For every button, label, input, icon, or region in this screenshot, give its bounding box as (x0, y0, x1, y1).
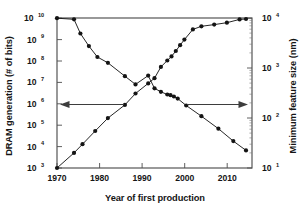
x-tick-label-0: 1970 (47, 173, 66, 183)
x-tick-label-1: 1980 (90, 173, 109, 183)
y2-tick-mantissa-2: 10 (262, 63, 272, 73)
y-tick-exponent-0: 3 (41, 162, 44, 168)
y-tick-exponent-4: 7 (41, 76, 44, 82)
x-tick-label-4: 2010 (218, 173, 237, 183)
y-tick-mantissa-5: 10 (27, 56, 37, 66)
y-tick-mantissa-2: 10 (27, 120, 37, 130)
y-tick-mantissa-7: 10 (24, 13, 34, 23)
y2-tick-mantissa-1: 10 (262, 113, 272, 123)
y-tick-exponent-3: 6 (41, 97, 44, 103)
x-tick-label-3: 2000 (175, 173, 194, 183)
y2-tick-exponent-1: 2 (276, 112, 279, 118)
y-tick-exponent-5: 8 (41, 55, 44, 61)
y-tick-mantissa-0: 10 (27, 163, 37, 173)
x-axis-title: Year of first production (105, 193, 205, 203)
y-tick-exponent-7: 10 (38, 12, 44, 18)
y-tick-mantissa-1: 10 (27, 142, 37, 152)
x-tick-label-2: 1990 (133, 173, 152, 183)
dram-scaling-chart: DRAM generation (# of bits) Minimum feat… (0, 0, 307, 211)
y2-tick-exponent-0: 1 (276, 162, 279, 168)
y-tick-mantissa-4: 10 (27, 77, 37, 87)
y2-axis-title-group: Minimum feature size (nm) (288, 39, 298, 154)
y-axis-title: DRAM generation (# of bits) (4, 36, 14, 156)
chart-svg: DRAM generation (# of bits) Minimum feat… (0, 0, 307, 211)
y2-axis-title: Minimum feature size (nm) (288, 39, 298, 154)
y-tick-mantissa-6: 10 (27, 35, 37, 45)
y-tick-exponent-2: 5 (41, 119, 44, 125)
y-tick-mantissa-3: 10 (27, 99, 37, 109)
y2-tick-mantissa-3: 10 (262, 13, 272, 23)
y-axis-title-group: DRAM generation (# of bits) (4, 36, 14, 156)
y-tick-exponent-6: 9 (41, 33, 44, 39)
y2-tick-exponent-2: 3 (276, 62, 279, 68)
y2-tick-mantissa-0: 10 (262, 163, 272, 173)
chart-background (0, 0, 307, 211)
